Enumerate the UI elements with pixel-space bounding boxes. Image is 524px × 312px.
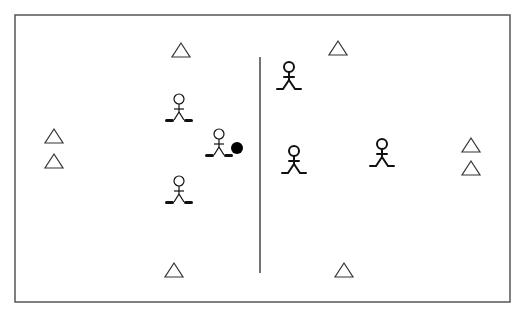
hockey-stick-icon bbox=[165, 119, 174, 122]
hockey-stick-icon bbox=[224, 154, 233, 157]
field bbox=[15, 15, 510, 302]
drill-diagram bbox=[0, 0, 524, 312]
hockey-stick-icon bbox=[184, 201, 193, 204]
hockey-stick-icon bbox=[184, 119, 193, 122]
field-border bbox=[15, 15, 510, 302]
hockey-stick-icon bbox=[205, 154, 214, 157]
hockey-stick-icon bbox=[165, 201, 174, 204]
ball-layer bbox=[231, 142, 243, 154]
ball-icon bbox=[231, 142, 243, 154]
